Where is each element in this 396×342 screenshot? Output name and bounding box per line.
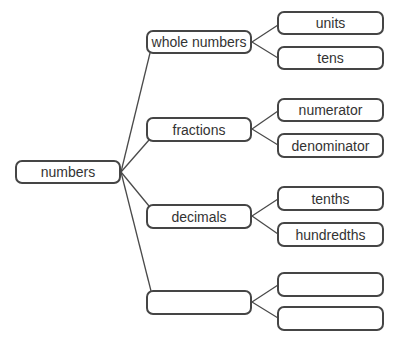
node-label: tens xyxy=(317,51,343,65)
node-hundredths: hundredths xyxy=(277,222,384,247)
node-blank-leaf-2 xyxy=(277,306,384,331)
connector-whole-numbers-units xyxy=(252,25,278,42)
node-fractions: fractions xyxy=(146,117,252,142)
node-decimals: decimals xyxy=(146,204,252,229)
connector-blank-leaf-1 xyxy=(252,285,278,302)
node-label: whole numbers xyxy=(152,35,247,49)
node-blank-branch xyxy=(146,290,252,315)
node-label: decimals xyxy=(171,210,226,224)
connector-decimals-tenths xyxy=(252,199,278,216)
connector-fractions-denominator xyxy=(252,129,278,145)
node-label: numerator xyxy=(299,103,363,117)
node-blank-leaf-1 xyxy=(277,272,384,297)
node-tens: tens xyxy=(277,46,384,70)
node-label: numbers xyxy=(41,165,95,179)
node-label: hundredths xyxy=(295,228,365,242)
connector-decimals-hundredths xyxy=(252,216,278,234)
node-label: fractions xyxy=(173,123,226,137)
connector-blank-leaf-2 xyxy=(252,302,278,318)
connector-fractions-numerator xyxy=(252,111,278,129)
node-tenths: tenths xyxy=(277,186,384,211)
node-numerator: numerator xyxy=(277,98,384,122)
node-label: denominator xyxy=(292,139,370,153)
node-units: units xyxy=(277,11,384,35)
node-label: units xyxy=(316,16,346,30)
connector-numbers-whole-numbers xyxy=(121,53,150,172)
node-label: tenths xyxy=(311,192,349,206)
node-whole-numbers: whole numbers xyxy=(146,30,252,54)
node-denominator: denominator xyxy=(277,133,384,158)
connector-whole-numbers-tens xyxy=(252,42,278,58)
node-numbers: numbers xyxy=(15,160,121,184)
tree-diagram: numbers whole numbers fractions decimals… xyxy=(0,0,396,342)
